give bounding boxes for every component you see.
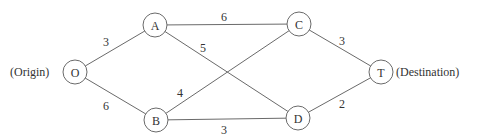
node-label-o: O [71,66,80,80]
node-label-a: A [151,19,160,33]
network-diagram: 36654332 OABCDT (Origin) (Destination) [0,0,477,140]
edge-a-c [155,24,299,25]
node-d: D [286,106,310,130]
edge-o-b [75,72,156,120]
edge-d-t [298,72,381,118]
edge-b-d [156,118,298,120]
node-b: B [144,108,168,132]
edge-b-c [156,24,299,120]
node-c: C [287,12,311,36]
node-t: T [369,60,393,84]
edge-weight-a-c: 6 [221,10,227,24]
node-label-d: D [294,112,303,126]
origin-annotation: (Origin) [10,65,49,79]
node-a: A [143,13,167,37]
node-label-b: B [152,114,160,128]
edges-layer [75,24,381,120]
edge-weight-b-c: 4 [177,86,183,100]
edge-weight-c-t: 3 [339,34,345,48]
edge-c-t [299,24,381,72]
edge-weight-b-d: 3 [221,123,227,137]
destination-annotation: (Destination) [396,65,459,79]
edge-weight-o-a: 3 [103,35,109,49]
node-label-t: T [377,66,385,80]
edge-o-a [75,25,155,72]
node-label-c: C [295,18,303,32]
edge-weight-a-d: 5 [200,41,206,55]
edge-weight-d-t: 2 [339,97,345,111]
edge-weight-o-b: 6 [103,99,109,113]
node-o: O [63,60,87,84]
diagram-canvas: 36654332 OABCDT (Origin) (Destination) [0,0,477,140]
